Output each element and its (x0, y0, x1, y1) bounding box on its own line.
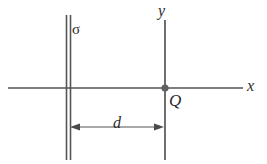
sheet-charge-density-label: σ (72, 22, 80, 37)
y-axis-label: y (158, 3, 165, 19)
point-charge-label: Q (169, 92, 181, 109)
diagram-canvas (0, 0, 267, 164)
physics-diagram: σ y x Q d (0, 0, 267, 164)
x-axis-label: x (247, 78, 254, 94)
point-charge-dot (161, 84, 168, 91)
distance-label: d (113, 115, 121, 131)
dimension-arrow-right-icon (154, 123, 164, 130)
dimension-arrow-left-icon (70, 123, 80, 130)
